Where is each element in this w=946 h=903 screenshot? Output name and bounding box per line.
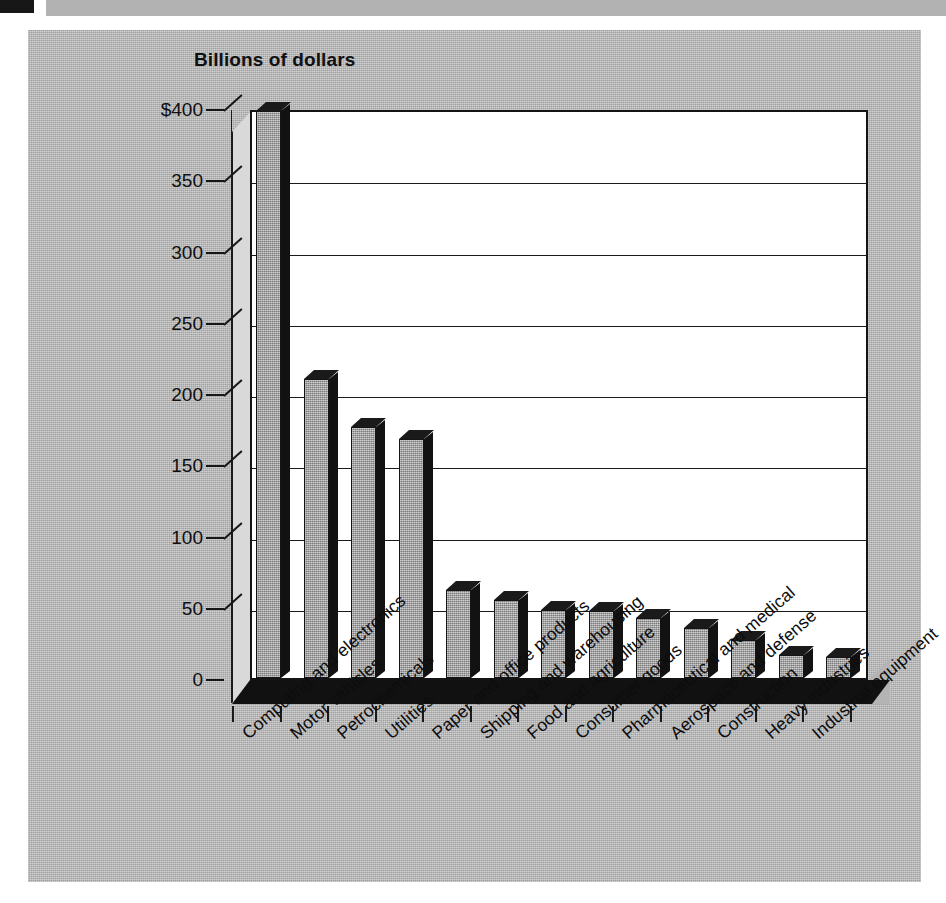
scan-corner-mark: [0, 0, 34, 13]
chart-panel: Billions of dollars $4003503002502001501…: [28, 30, 921, 882]
plot-wrap: $400350300250200150100500 Computing and …: [28, 30, 921, 882]
x-axis-labels: Computing and electronicsMotor vehiclesP…: [28, 30, 921, 882]
scan-top-strip: [46, 0, 946, 16]
